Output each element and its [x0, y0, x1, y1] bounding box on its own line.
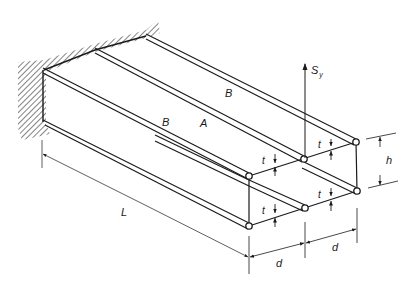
load-label: Sy — [311, 64, 323, 79]
node-bottom-left — [246, 223, 252, 229]
panel-label-b-top: B — [225, 87, 232, 99]
width-label-2: d — [332, 241, 339, 253]
width-label-1: d — [276, 257, 283, 269]
panel-label-b-front: B — [162, 116, 169, 128]
width-dimension — [249, 208, 357, 274]
height-label: h — [386, 154, 392, 166]
panel-label-a: A — [199, 117, 207, 129]
thickness-label-top-left: t — [262, 155, 266, 166]
boom-bottom-right — [302, 162, 357, 194]
thickness-label-bottom-right: t — [318, 189, 322, 200]
boom-bottom-middle — [155, 135, 305, 211]
node-bottom-middle — [302, 205, 308, 211]
node-top-middle — [301, 156, 307, 162]
box-beam-diagram: Sy B B A t t t t h d d L — [0, 0, 412, 283]
length-dimension — [42, 140, 248, 257]
thickness-label-bottom-left: t — [262, 205, 266, 216]
tip-section — [249, 142, 357, 226]
boom-top-middle — [95, 48, 304, 162]
length-label: L — [121, 206, 127, 218]
height-dimension — [366, 133, 398, 188]
boom-top-left — [43, 68, 249, 179]
node-top-right — [353, 139, 359, 145]
booms — [43, 34, 357, 229]
boom-bottom-left — [43, 120, 249, 229]
node-bottom-right — [354, 188, 360, 194]
thickness-label-top-right: t — [318, 139, 322, 150]
node-top-left — [246, 173, 252, 179]
